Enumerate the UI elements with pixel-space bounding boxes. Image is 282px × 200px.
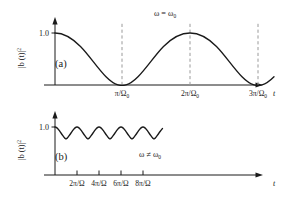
panel-b-y-axis: [52, 111, 57, 175]
svg-text:|b (t)|2: |b (t)|2: [16, 140, 26, 160]
panel-a-y-tick-label: 1.0: [39, 29, 49, 38]
panel-a-dashed-guides: [122, 22, 258, 85]
panel-b-x-tick-label-2: 4π/Ω: [91, 179, 107, 188]
panel-a-y-axis-label: |b (t)|2: [16, 48, 26, 68]
panel-b-x-tick-label-3: 6π/Ω: [113, 179, 129, 188]
panel-a-x-axis-label: t: [273, 89, 276, 98]
svg-text:|b (t)|2: |b (t)|2: [16, 48, 26, 68]
panel-b-curve: [55, 127, 163, 139]
panel-b-x-ticks: [77, 171, 143, 176]
panel-a-x-axis: [44, 82, 263, 87]
panel-a-condition: ω = ω0: [154, 9, 177, 19]
panel-b-condition: ω ≠ ω0: [139, 150, 161, 160]
rabi-oscillation-figure: |b (t)|2 1.0 (a) ω = ω0 π/Ω0 2π/Ω0 3π/Ω0…: [0, 0, 282, 200]
panel-b-y-axis-label: |b (t)|2: [16, 140, 26, 160]
panel-b-y-tick-label: 1.0: [39, 123, 49, 132]
panel-b-x-axis-label: t: [273, 179, 276, 188]
panel-a-y-label-exp: 2: [16, 48, 22, 51]
panel-b-condition-lhs: ω ≠ ω: [139, 150, 159, 159]
panel-a-y-axis: [52, 17, 57, 85]
panel-a-curve: [55, 33, 274, 85]
panel-a-condition-lhs: ω = ω: [154, 9, 174, 18]
panel-a-condition-sub: 0: [173, 13, 176, 19]
panel-a-x-tick-label-1: π/Ω0: [115, 89, 130, 99]
panel-a-x-tick-label-2: 2π/Ω0: [181, 89, 199, 99]
panel-a-x-tick-label-3: 3π/Ω0: [249, 89, 267, 99]
panel-b-condition-sub: 0: [158, 154, 161, 160]
panel-a-y-label-main: |b (t)|: [17, 50, 26, 68]
panel-a: |b (t)|2 1.0 (a) ω = ω0 π/Ω0 2π/Ω0 3π/Ω0…: [16, 9, 276, 99]
panel-b-x-tick-label-4: 8π/Ω: [135, 179, 151, 188]
panel-b-y-label-exp: 2: [16, 140, 22, 143]
panel-a-label: (a): [55, 58, 67, 70]
panel-b: |b (t)|2 1.0 (b) ω ≠ ω0 2π/Ω 4π/Ω 6π/Ω 8…: [16, 111, 276, 188]
panel-b-y-label-main: |b (t)|: [17, 142, 26, 160]
panel-b-label: (b): [55, 151, 68, 163]
panel-b-x-tick-label-1: 2π/Ω: [69, 179, 85, 188]
